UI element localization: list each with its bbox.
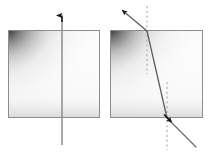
panel-left	[9, 16, 100, 146]
incident-ray-right	[123, 11, 148, 32]
ray-diagram-canvas	[0, 0, 209, 154]
panel-left-slab	[9, 31, 100, 118]
panel-right	[111, 6, 203, 150]
slab-bottom-shadow-left	[9, 31, 100, 118]
ray-diagram-figure: Refraction of light through a rectangula…	[0, 0, 209, 154]
emergent-ray-right	[167, 118, 196, 147]
